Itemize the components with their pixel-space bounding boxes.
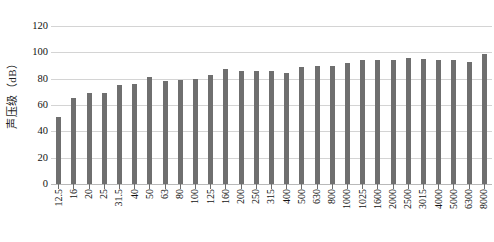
bar-slot bbox=[233, 26, 248, 184]
bar bbox=[421, 59, 426, 184]
x-axis-tick-labels: 12.516202531.540506380100125160200250315… bbox=[51, 189, 492, 241]
bar-slot bbox=[66, 26, 81, 184]
x-axis-tick-label-slot: 160 bbox=[218, 189, 233, 241]
x-axis-tick-label: 400 bbox=[282, 189, 292, 204]
bar-slot bbox=[81, 26, 96, 184]
bar bbox=[254, 71, 259, 184]
x-axis-tick-label-slot: 3015 bbox=[416, 189, 431, 241]
x-axis-tick-label: 31.5 bbox=[114, 189, 124, 207]
x-axis-tick-label: 100 bbox=[190, 189, 200, 204]
bar bbox=[163, 81, 168, 184]
y-axis-tick-label: 60 bbox=[38, 100, 49, 111]
x-axis-tick-label-slot: 400 bbox=[279, 189, 294, 241]
bar bbox=[147, 77, 152, 184]
bar-series bbox=[51, 26, 492, 184]
bar bbox=[406, 58, 411, 184]
bar-slot bbox=[112, 26, 127, 184]
bar-chart: 声压级（dB） 120100806040200 12.516202531.540… bbox=[0, 0, 494, 242]
bar bbox=[193, 79, 198, 184]
bar-slot bbox=[385, 26, 400, 184]
x-axis-tick-label: 125 bbox=[206, 189, 216, 204]
x-axis-tick-label-slot: 315 bbox=[264, 189, 279, 241]
x-axis-tick-label-slot: 1600 bbox=[370, 189, 385, 241]
bar bbox=[330, 66, 335, 185]
bar bbox=[315, 66, 320, 185]
bar bbox=[345, 63, 350, 184]
bar bbox=[269, 71, 274, 184]
x-axis-tick-label-slot: 1025 bbox=[355, 189, 370, 241]
x-axis-tick-label: 1600 bbox=[373, 189, 383, 209]
bar-slot bbox=[325, 26, 340, 184]
bar-slot bbox=[218, 26, 233, 184]
y-axis-title-text: 声压级（dB） bbox=[3, 57, 19, 128]
x-axis-tick-label: 63 bbox=[160, 189, 170, 199]
bar-slot bbox=[401, 26, 416, 184]
x-axis-tick-label: 1000 bbox=[342, 189, 352, 209]
bar-slot bbox=[157, 26, 172, 184]
bar-slot bbox=[188, 26, 203, 184]
x-axis-tick-label: 5000 bbox=[449, 189, 459, 209]
bar bbox=[467, 62, 472, 184]
bar bbox=[132, 84, 137, 184]
x-axis-tick-label: 2000 bbox=[388, 189, 398, 209]
x-axis-tick-label-slot: 8000 bbox=[477, 189, 492, 241]
x-axis-tick-label-slot: 200 bbox=[233, 189, 248, 241]
bar-slot bbox=[431, 26, 446, 184]
bar-slot bbox=[97, 26, 112, 184]
bar bbox=[482, 54, 487, 184]
bar-slot bbox=[416, 26, 431, 184]
bar bbox=[71, 98, 76, 184]
y-axis-tick-label: 20 bbox=[38, 152, 49, 163]
bar bbox=[223, 69, 228, 184]
bar bbox=[87, 93, 92, 184]
bar-slot bbox=[477, 26, 492, 184]
bar-slot bbox=[127, 26, 142, 184]
bar-slot bbox=[142, 26, 157, 184]
bar-slot bbox=[203, 26, 218, 184]
x-axis-tick-label-slot: 25 bbox=[97, 189, 112, 241]
bar bbox=[299, 67, 304, 184]
bar bbox=[208, 75, 213, 184]
x-axis-tick-label: 500 bbox=[297, 189, 307, 204]
x-axis-tick-label: 16 bbox=[69, 189, 79, 199]
x-axis-tick-label-slot: 1000 bbox=[340, 189, 355, 241]
bar bbox=[102, 93, 107, 184]
bar-slot bbox=[294, 26, 309, 184]
x-axis-tick-label: 250 bbox=[251, 189, 261, 204]
y-axis-tick-label: 100 bbox=[32, 47, 48, 58]
bar-slot bbox=[355, 26, 370, 184]
bar bbox=[239, 71, 244, 184]
x-axis-tick-label: 315 bbox=[266, 189, 276, 204]
x-axis-tick-label-slot: 20 bbox=[81, 189, 96, 241]
x-axis-tick-label-slot: 16 bbox=[66, 189, 81, 241]
x-axis-tick-label-slot: 50 bbox=[142, 189, 157, 241]
y-axis-tick-label: 0 bbox=[43, 179, 48, 190]
y-axis-title: 声压级（dB） bbox=[0, 0, 22, 186]
x-axis-tick-label: 25 bbox=[99, 189, 109, 199]
bar-slot bbox=[309, 26, 324, 184]
x-axis-tick-label: 40 bbox=[130, 189, 140, 199]
y-axis-tick-label: 120 bbox=[32, 21, 48, 32]
bar-slot bbox=[340, 26, 355, 184]
x-axis-tick-label: 50 bbox=[145, 189, 155, 199]
x-axis-tick-label-slot: 12.5 bbox=[51, 189, 66, 241]
x-axis-tick-label: 1025 bbox=[358, 189, 368, 209]
bar bbox=[178, 80, 183, 184]
x-axis-tick-label: 12.5 bbox=[54, 189, 64, 207]
x-axis-tick-label: 160 bbox=[221, 189, 231, 204]
x-axis-tick-label: 6300 bbox=[464, 189, 474, 209]
x-axis-tick-label-slot: 100 bbox=[188, 189, 203, 241]
y-axis-tick-labels: 120100806040200 bbox=[20, 0, 48, 186]
y-axis-tick-label: 80 bbox=[38, 73, 49, 84]
x-axis-tick-label-slot: 125 bbox=[203, 189, 218, 241]
x-axis-tick-label: 20 bbox=[84, 189, 94, 199]
bar-slot bbox=[461, 26, 476, 184]
x-axis-tick-label-slot: 80 bbox=[173, 189, 188, 241]
x-axis-tick-label: 3015 bbox=[418, 189, 428, 209]
bar bbox=[360, 60, 365, 184]
x-axis-tick-label-slot: 6300 bbox=[461, 189, 476, 241]
x-axis-tick-label: 800 bbox=[327, 189, 337, 204]
x-axis-tick-label-slot: 500 bbox=[294, 189, 309, 241]
bar-slot bbox=[370, 26, 385, 184]
x-axis-tick-label-slot: 63 bbox=[157, 189, 172, 241]
